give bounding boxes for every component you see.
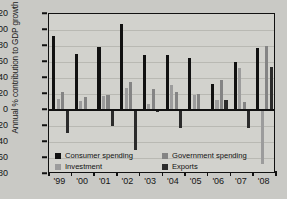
x-axis-tick-label: '08: [258, 176, 270, 186]
chart-figure: Annual % contribution to GDP growth 1201…: [0, 0, 287, 199]
y-axis-tick-label: 0: [0, 104, 8, 114]
plot-area: [48, 13, 275, 173]
y-axis-tick-label: 20: [0, 88, 8, 98]
legend-row: Consumer spending Government spending: [55, 150, 260, 161]
legend-item-exports: Exports: [162, 162, 198, 171]
y-axis-tick-label: 120: [0, 8, 8, 18]
zero-baseline: [49, 14, 274, 172]
y-axis-tick-mark: [42, 108, 47, 110]
x-axis-tick-label: '99: [53, 176, 65, 186]
y-axis-tick-label: -40: [0, 136, 8, 146]
y-axis-tick-label: 60: [0, 56, 8, 66]
y-axis-tick-mark: [42, 92, 47, 94]
y-axis-tick-mark: [42, 124, 47, 126]
x-axis-tick-label: '04: [167, 176, 179, 186]
y-axis-title: Annual % contribution to GDP growth: [11, 0, 20, 143]
legend-label: Consumer spending: [65, 151, 133, 160]
legend-item-government-spending: Government spending: [162, 151, 247, 160]
y-axis-tick-mark: [42, 76, 47, 78]
legend-label: Government spending: [172, 151, 247, 160]
y-axis-tick-mark: [42, 12, 47, 14]
y-axis-tick-label: 100: [0, 24, 8, 34]
legend-swatch-icon: [55, 164, 61, 170]
legend-row: Investment Exports: [55, 161, 260, 172]
x-axis-tick-label: '03: [144, 176, 156, 186]
legend-item-investment: Investment: [55, 162, 162, 171]
chart-legend: Consumer spending Government spending In…: [55, 150, 260, 172]
y-axis-tick-mark: [42, 28, 47, 30]
x-axis-tick-label: '02: [122, 176, 134, 186]
x-axis-tick-label: '07: [235, 176, 247, 186]
y-axis-tick-mark: [42, 44, 47, 46]
legend-swatch-icon: [162, 164, 168, 170]
y-axis-tick-mark: [42, 156, 47, 158]
legend-label: Investment: [65, 162, 102, 171]
x-axis-tick-mark: [275, 171, 277, 176]
y-axis-tick-label: -20: [0, 120, 8, 130]
x-axis-tick-label: '05: [190, 176, 202, 186]
y-axis-tick-mark: [42, 172, 47, 174]
legend-swatch-icon: [162, 153, 168, 159]
y-axis-tick-mark: [42, 140, 47, 142]
y-axis-tick-label: -60: [0, 152, 8, 162]
x-axis-tick-label: '06: [212, 176, 224, 186]
legend-swatch-icon: [55, 153, 61, 159]
x-axis-tick-label: '01: [99, 176, 111, 186]
legend-label: Exports: [172, 162, 198, 171]
x-axis-tick-label: '00: [76, 176, 88, 186]
y-axis-tick-label: -80: [0, 168, 8, 178]
y-axis-tick-mark: [42, 60, 47, 62]
legend-item-consumer-spending: Consumer spending: [55, 151, 162, 160]
y-axis-tick-label: 80: [0, 40, 8, 50]
y-axis-tick-label: 40: [0, 72, 8, 82]
